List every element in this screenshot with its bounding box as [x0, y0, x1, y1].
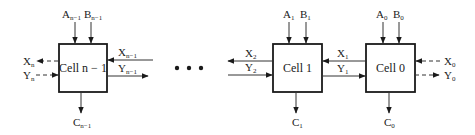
- a-n-1-label: An−1: [62, 8, 81, 22]
- cell-1-group: Cell 1 A1 B1 C1 X2 Y2: [228, 8, 322, 130]
- cell-0-group: Cell 0 A0 B0 C0 X1 Y1 X0 Y0: [322, 8, 456, 130]
- ellipsis-dot: [175, 66, 179, 70]
- ellipsis-dots: [175, 66, 203, 70]
- x-2-label: X2: [245, 47, 257, 61]
- y-1-label: Y1: [337, 62, 349, 76]
- x-n-label: Xn: [23, 55, 35, 69]
- c-0-label: C0: [384, 116, 395, 130]
- x-0-label: X0: [444, 55, 456, 69]
- a-0-label: A0: [376, 8, 388, 22]
- y-0-label: Y0: [444, 69, 456, 83]
- a-1-label: A1: [283, 8, 295, 22]
- x-n-1-label: Xn−1: [118, 46, 137, 60]
- cell-1-label: Cell 1: [283, 61, 312, 75]
- cell-n-1-label: Cell n − 1: [59, 61, 107, 75]
- ellipsis-dot: [187, 66, 191, 70]
- x-1-label: X1: [337, 47, 349, 61]
- b-n-1-label: Bn−1: [84, 8, 103, 22]
- y-2-label: Y2: [245, 61, 257, 75]
- b-1-label: B1: [300, 8, 311, 22]
- c-1-label: C1: [292, 116, 303, 130]
- y-n-label: Yn: [23, 69, 35, 83]
- y-n-1-label: Yn−1: [118, 62, 137, 76]
- cell-chain-diagram: Cell n − 1 An−1 Bn−1 Cn−1 Xn Yn Xn−1 Yn−…: [0, 0, 475, 135]
- cell-n-1-group: Cell n − 1 An−1 Bn−1 Cn−1 Xn Yn Xn−1 Yn−…: [23, 8, 153, 130]
- cell-0-label: Cell 0: [376, 61, 405, 75]
- ellipsis-dot: [199, 66, 203, 70]
- c-n-1-label: Cn−1: [73, 116, 92, 130]
- b-0-label: B0: [393, 8, 404, 22]
